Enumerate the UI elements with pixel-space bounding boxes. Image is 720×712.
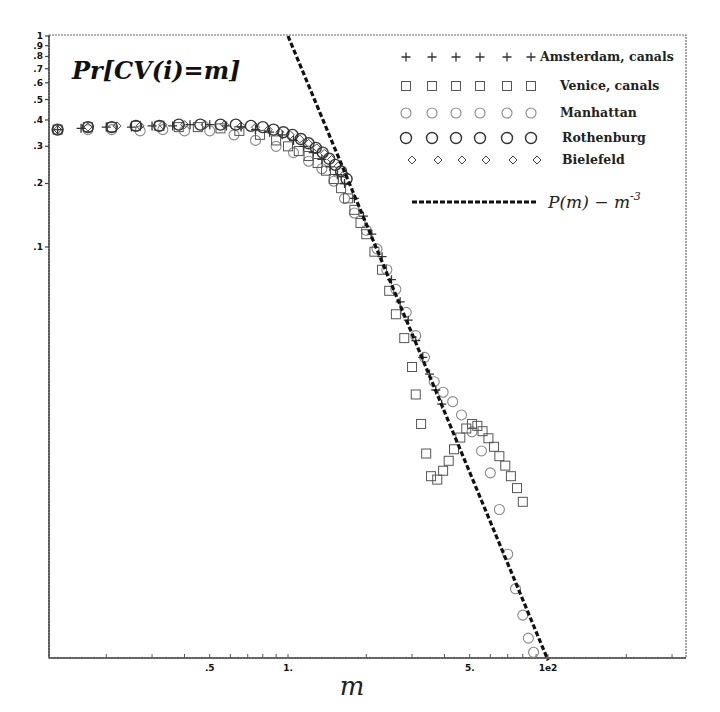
y-tick-label: .1 bbox=[33, 242, 43, 252]
x-tick-label: .5 bbox=[205, 663, 215, 673]
legend-label: Bielefeld bbox=[562, 152, 625, 167]
y-tick-label: .3 bbox=[33, 141, 43, 151]
y-tick-label: .9 bbox=[33, 41, 43, 51]
legend-formula: P(m) − m-3 bbox=[547, 190, 641, 212]
y-tick-label: .7 bbox=[33, 64, 43, 74]
x-tick-label: 5. bbox=[465, 663, 475, 673]
x-tick-label: 1. bbox=[283, 663, 293, 673]
x-axis-label: m bbox=[340, 671, 365, 701]
legend-label: Venice, canals bbox=[559, 78, 659, 93]
y-tick-label: .8 bbox=[33, 51, 43, 61]
y-tick-label: 1 bbox=[37, 31, 43, 41]
legend-label: Rothenburg bbox=[562, 130, 646, 145]
y-tick-label: .4 bbox=[33, 115, 43, 125]
chart-title: Pr[CV(i)=m] bbox=[71, 56, 240, 85]
legend-label: Amsterdam, canals bbox=[539, 49, 674, 64]
y-tick-label: .5 bbox=[33, 95, 43, 105]
x-tick-label: 1e2 bbox=[539, 663, 558, 673]
y-tick-label: .2 bbox=[33, 178, 43, 188]
legend-label: Manhattan bbox=[560, 105, 637, 120]
chart-canvas: 1.9.8.7.6.5.4.3.2.1 .51.5.1e2 Pr[CV(i)=m… bbox=[0, 0, 720, 712]
y-tick-label: .6 bbox=[33, 78, 43, 88]
